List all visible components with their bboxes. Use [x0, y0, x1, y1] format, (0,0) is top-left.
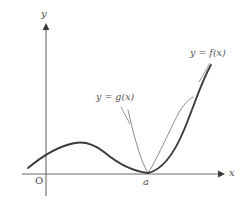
curve-label-g: y = g(x): [96, 92, 134, 102]
curve-f: [28, 65, 211, 173]
origin-label: O: [35, 176, 43, 186]
curve-g: [128, 97, 193, 173]
y-axis: [43, 23, 50, 196]
x-tick-label-a: a: [143, 177, 149, 187]
x-axis-arrowhead: [218, 171, 225, 178]
x-axis-label: x: [229, 168, 235, 178]
curve-label-f: y = f(x): [190, 48, 226, 58]
function-graph-figure: y x O a y = f(x) y = g(x): [0, 0, 250, 212]
x-axis: [22, 171, 225, 178]
y-axis-label: y: [41, 9, 47, 19]
y-axis-arrowhead: [43, 23, 50, 30]
leader-line-g: [121, 107, 130, 124]
